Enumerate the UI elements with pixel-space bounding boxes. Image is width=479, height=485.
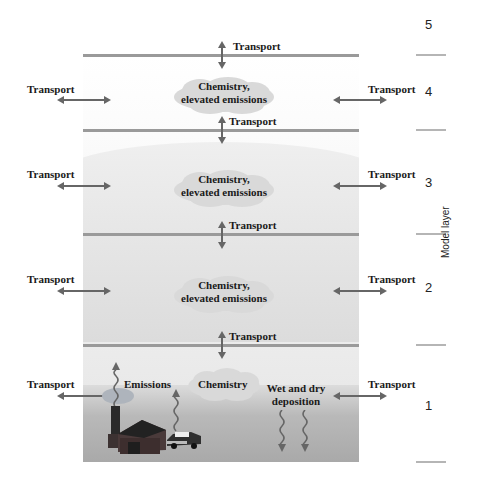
car-icon [165, 428, 203, 450]
transport-label-right: Transport [368, 273, 415, 285]
transport-label-right: Transport [368, 378, 415, 390]
cloud-label-line2: elevated emissions [164, 292, 284, 305]
horizontal-arrow-icon [57, 181, 111, 191]
horizontal-arrow-icon [57, 286, 111, 296]
axis-tick [416, 129, 446, 131]
vertical-arrow-icon [217, 221, 227, 249]
deposition-wavy-arrow-icon [300, 410, 310, 452]
axis-tick [416, 344, 446, 346]
horizontal-arrow-icon [57, 95, 111, 105]
transport-label-left: Transport [27, 168, 74, 180]
cloud-label: Chemistry,elevated emissions [164, 173, 284, 199]
horizontal-arrow-icon [333, 181, 387, 191]
emission-wavy-arrow-icon [171, 389, 181, 433]
vertical-arrow-icon [217, 41, 227, 69]
cloud-label-line2: elevated emissions [164, 186, 284, 199]
horizontal-arrow-icon [333, 286, 387, 296]
cloud-label-line2: elevated emissions [164, 93, 284, 106]
layer-number-3: 3 [425, 175, 432, 190]
transport-label-right: Transport [368, 168, 415, 180]
transport-label: Transport [229, 219, 276, 231]
vertical-arrow-icon [217, 116, 227, 144]
transport-label-left: Transport [27, 378, 74, 390]
chemistry-label: Chemistry [198, 378, 248, 390]
deposition-label-line2: deposition [256, 395, 336, 408]
transport-label-left: Transport [27, 83, 74, 95]
layer-number-1: 1 [425, 398, 432, 413]
vertical-arrow-icon [217, 331, 227, 359]
transport-label-right: Transport [368, 83, 415, 95]
cloud-label-line1: Chemistry, [164, 279, 284, 292]
axis-label: Model layer [440, 206, 451, 258]
axis-tick [416, 54, 446, 56]
transport-label-left: Transport [27, 273, 74, 285]
layer-number-2: 2 [425, 280, 432, 295]
transport-label: Transport [229, 115, 276, 127]
horizontal-arrow-icon [333, 391, 387, 401]
deposition-label-line1: Wet and dry [256, 382, 336, 395]
horizontal-arrow-icon [333, 95, 387, 105]
layer-number-4: 4 [425, 84, 432, 99]
deposition-wavy-arrow-icon [277, 410, 287, 452]
layer-number-5: 5 [425, 17, 432, 32]
axis-tick [416, 461, 446, 463]
transport-label: Transport [229, 330, 276, 342]
cloud-label-line1: Chemistry, [164, 80, 284, 93]
cloud-label-line1: Chemistry, [164, 173, 284, 186]
cloud-label: Chemistry,elevated emissions [164, 80, 284, 106]
deposition-label: Wet and drydeposition [256, 382, 336, 408]
factory-icon [106, 400, 168, 456]
transport-label: Transport [233, 40, 280, 52]
cloud-label: Chemistry,elevated emissions [164, 279, 284, 305]
